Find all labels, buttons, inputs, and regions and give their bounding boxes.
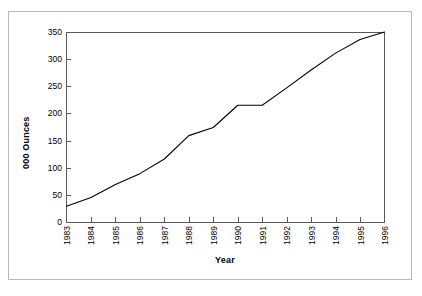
- plot-axes: [66, 32, 385, 223]
- x-tick-label-1983: 1983: [62, 226, 72, 245]
- y-tick-label-200: 200: [36, 109, 62, 118]
- y-tick-label-50: 50: [36, 191, 62, 200]
- x-tick-label-1995: 1995: [356, 226, 366, 245]
- x-tick-label-1985: 1985: [111, 226, 121, 245]
- x-tick-label-1990: 1990: [233, 226, 243, 245]
- x-tick-label-1987: 1987: [160, 226, 170, 245]
- x-tick-label-1989: 1989: [209, 226, 219, 245]
- y-tick-label-300: 300: [36, 55, 62, 64]
- x-tick-label-1993: 1993: [307, 226, 317, 245]
- y-tick-label-350: 350: [36, 28, 62, 37]
- y-tick-label-150: 150: [36, 137, 62, 146]
- chart-figure: 350 300 250 200 150 100 50 0 1983 1984 1…: [0, 0, 422, 296]
- data-series-line: [67, 32, 385, 206]
- y-tick-label-0: 0: [36, 218, 62, 227]
- x-tick-marks: [67, 217, 385, 222]
- x-tick-label-1992: 1992: [282, 226, 292, 245]
- line-chart-plot: [0, 0, 422, 296]
- y-tick-label-250: 250: [36, 82, 62, 91]
- x-tick-label-1988: 1988: [184, 226, 194, 245]
- y-tick-label-100: 100: [36, 164, 62, 173]
- x-tick-label-1984: 1984: [86, 226, 96, 245]
- x-tick-label-1996: 1996: [380, 226, 390, 245]
- x-tick-label-1994: 1994: [331, 226, 341, 245]
- x-tick-label-1986: 1986: [135, 226, 145, 245]
- x-tick-label-1991: 1991: [258, 226, 268, 245]
- x-axis-title: Year: [175, 255, 275, 265]
- y-axis-title: 000 Ounces: [19, 103, 33, 183]
